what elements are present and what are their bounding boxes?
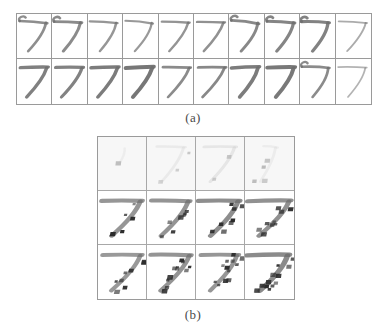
digit-glyph xyxy=(336,59,371,104)
digit-glyph xyxy=(17,59,51,104)
digit-cell xyxy=(147,191,196,245)
digit-glyph xyxy=(194,59,228,104)
digit-cell xyxy=(245,137,294,191)
digit-glyph xyxy=(147,137,195,190)
digit-glyph xyxy=(300,14,334,58)
digit-glyph xyxy=(98,245,146,299)
digit-cell xyxy=(52,14,87,59)
digit-glyph xyxy=(147,245,195,299)
digit-cell xyxy=(336,59,371,104)
digit-glyph xyxy=(88,59,122,104)
digit-glyph xyxy=(98,137,146,190)
digit-glyph xyxy=(196,245,244,299)
digit-glyph xyxy=(88,14,122,58)
digit-glyph xyxy=(194,14,228,58)
digit-cell xyxy=(229,14,264,59)
digit-cell xyxy=(52,59,87,104)
digit-cell xyxy=(196,191,245,245)
digit-glyph xyxy=(265,59,299,104)
digit-cell xyxy=(336,14,371,59)
digit-cell xyxy=(196,137,245,191)
digit-cell xyxy=(229,59,264,104)
digit-cell xyxy=(98,245,147,299)
digit-glyph xyxy=(245,137,294,190)
top-text-fragment xyxy=(0,0,386,6)
digit-cell xyxy=(88,59,123,104)
digit-cell xyxy=(194,14,229,59)
digit-cell xyxy=(194,59,229,104)
digit-cell xyxy=(17,59,52,104)
digit-glyph xyxy=(229,59,263,104)
caption-panel-a: (a) xyxy=(0,110,386,126)
digit-glyph xyxy=(98,191,146,244)
digit-cell xyxy=(123,14,158,59)
digit-cell xyxy=(265,59,300,104)
digit-cell xyxy=(17,14,52,59)
digit-glyph xyxy=(300,59,334,104)
digit-glyph xyxy=(147,191,195,244)
digit-glyph xyxy=(229,14,263,58)
digit-cell xyxy=(159,59,194,104)
caption-panel-b: (b) xyxy=(0,307,386,323)
digit-glyph xyxy=(123,14,157,58)
digit-cell xyxy=(265,14,300,59)
digit-cell xyxy=(147,137,196,191)
panel-b-digit-grid xyxy=(97,136,295,300)
digit-cell xyxy=(196,245,245,299)
digit-cell xyxy=(300,14,335,59)
digit-cell xyxy=(123,59,158,104)
digit-cell xyxy=(245,191,294,245)
digit-cell xyxy=(245,245,294,299)
figure-root: (a) (b) xyxy=(0,0,386,332)
digit-cell xyxy=(159,14,194,59)
digit-glyph xyxy=(159,14,193,58)
digit-glyph xyxy=(17,14,51,58)
digit-cell xyxy=(88,14,123,59)
digit-glyph xyxy=(245,245,294,299)
panel-a-digit-grid xyxy=(16,13,372,105)
digit-glyph xyxy=(336,14,371,58)
digit-cell xyxy=(300,59,335,104)
digit-cell xyxy=(98,191,147,245)
digit-glyph xyxy=(159,59,193,104)
digit-glyph xyxy=(52,14,86,58)
digit-cell xyxy=(98,137,147,191)
digit-glyph xyxy=(123,59,157,104)
digit-glyph xyxy=(196,191,244,244)
digit-glyph xyxy=(245,191,294,244)
digit-cell xyxy=(147,245,196,299)
digit-glyph xyxy=(196,137,244,190)
digit-glyph xyxy=(265,14,299,58)
digit-glyph xyxy=(52,59,86,104)
